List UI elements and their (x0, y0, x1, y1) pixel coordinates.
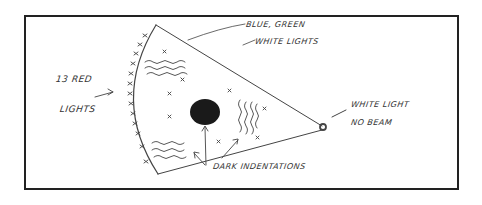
label-red-lights-line2: LIGHTS (59, 104, 96, 114)
arrow-red-lights (95, 89, 113, 97)
label-white-light-line2: NO BEAM (350, 118, 393, 127)
label-red-lights-line1: 13 RED (55, 74, 93, 84)
white-light-source (320, 124, 326, 130)
sketch-drawing (0, 0, 482, 205)
wave-group-bottom (152, 142, 186, 159)
label-blue-green-line2: WHITE LIGHTS (254, 37, 319, 46)
scattered-markers (163, 50, 266, 143)
leader-white-light (332, 110, 346, 117)
leader-blue-green-2 (243, 40, 255, 45)
label-dark-indentations: DARK INDENTATIONS (212, 162, 306, 171)
label-blue-green-line1: BLUE, GREEN (245, 20, 306, 29)
dark-indentation-blob (190, 99, 220, 125)
wave-group-top (145, 61, 187, 76)
arrow-to-blob (202, 126, 208, 165)
leader-blue-green (188, 24, 245, 40)
red-light-markers (128, 34, 148, 163)
fan-arc-edge (133, 25, 158, 174)
label-white-light-line1: WHITE LIGHT (350, 100, 409, 109)
wave-group-right (239, 100, 259, 134)
